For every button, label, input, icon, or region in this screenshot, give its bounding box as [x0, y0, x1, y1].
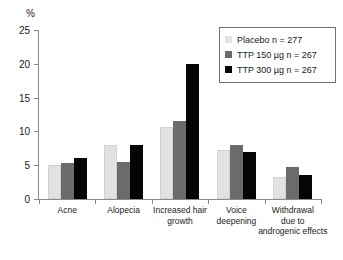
bar — [299, 175, 312, 199]
bar — [48, 165, 61, 199]
y-axis-tick-label: 20 — [8, 58, 30, 69]
bar — [273, 177, 286, 199]
legend-label: TTP 150 µg n = 267 — [237, 50, 317, 60]
legend-swatch-icon — [225, 36, 232, 43]
bar — [104, 145, 117, 199]
x-axis-tick-mark — [208, 199, 209, 204]
x-axis-tick-mark — [95, 199, 96, 204]
bar — [286, 167, 299, 199]
bar-group — [95, 30, 151, 199]
legend-item-ttp-150: TTP 150 µg n = 267 — [225, 47, 330, 62]
legend-item-ttp-300: TTP 300 µg n = 267 — [225, 62, 330, 77]
bar — [117, 162, 130, 199]
legend-swatch-icon — [225, 51, 232, 58]
y-axis-tick-label: 10 — [8, 126, 30, 137]
legend-swatch-icon — [225, 66, 232, 73]
x-axis-tick-mark — [39, 199, 40, 204]
y-axis-tick-label: 0 — [8, 194, 30, 205]
bar — [243, 152, 256, 199]
bar — [130, 145, 143, 199]
x-axis-tick-label: Withdrawaldue toandrogenic effects — [256, 205, 330, 237]
y-axis-tick-label: 5 — [8, 160, 30, 171]
legend-label: Placebo n = 277 — [237, 35, 302, 45]
bar-chart: % 0510152025 AcneAlopeciaIncreased hairg… — [0, 0, 343, 260]
x-axis-line — [38, 199, 321, 200]
bar — [186, 64, 199, 199]
bar — [160, 127, 173, 199]
y-axis-tick-label: 25 — [8, 25, 30, 36]
y-axis-tick-label: 15 — [8, 92, 30, 103]
legend-label: TTP 300 µg n = 267 — [237, 65, 317, 75]
x-axis-tick-mark — [321, 199, 322, 204]
chart-legend: Placebo n = 277 TTP 150 µg n = 267 TTP 3… — [219, 27, 336, 83]
y-axis-title: % — [26, 8, 35, 19]
bar-group — [39, 30, 95, 199]
bar — [230, 145, 243, 199]
bar — [74, 158, 87, 199]
bar — [217, 150, 230, 199]
x-axis-tick-mark — [265, 199, 266, 204]
legend-item-placebo: Placebo n = 277 — [225, 32, 330, 47]
x-axis-tick-mark — [152, 199, 153, 204]
bar-group — [152, 30, 208, 199]
bar — [173, 121, 186, 199]
bar — [61, 163, 74, 200]
